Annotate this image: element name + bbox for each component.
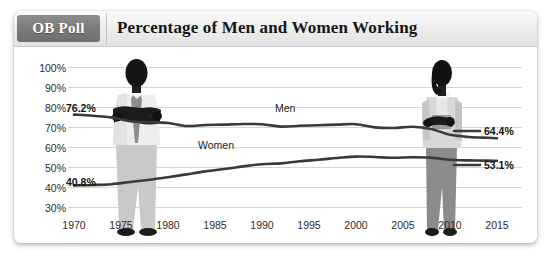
x-tick-1970: 1970 bbox=[52, 219, 96, 231]
y-tick-60: 60% bbox=[24, 142, 66, 154]
woman-silhouette bbox=[422, 60, 462, 236]
header-divider bbox=[106, 13, 107, 45]
value-label-women-start: 40.8% bbox=[66, 176, 96, 188]
x-tick-2005: 2005 bbox=[381, 219, 425, 231]
x-tick-2000: 2000 bbox=[334, 219, 378, 231]
ob-poll-badge-label: OB Poll bbox=[32, 20, 85, 37]
x-tick-1985: 1985 bbox=[193, 219, 237, 231]
y-tick-40: 40% bbox=[24, 182, 66, 194]
value-label-men-end: 64.4% bbox=[484, 125, 514, 137]
y-tick-50: 50% bbox=[24, 162, 66, 174]
series-label-women: Women bbox=[198, 139, 234, 151]
page-title: Percentage of Men and Women Working bbox=[117, 18, 417, 38]
y-tick-100: 100% bbox=[24, 62, 66, 74]
value-label-men-start: 76.2% bbox=[66, 102, 96, 114]
series-label-men: Men bbox=[275, 102, 295, 114]
x-tick-1980: 1980 bbox=[146, 219, 190, 231]
man-silhouette bbox=[112, 59, 162, 236]
x-tick-2015: 2015 bbox=[475, 219, 519, 231]
x-tick-1975: 1975 bbox=[99, 219, 143, 231]
x-tick-2010: 2010 bbox=[428, 219, 472, 231]
value-label-women-end: 53.1% bbox=[484, 159, 514, 171]
poll-chart-card: OB Poll Percentage of Men and Women Work… bbox=[14, 11, 537, 243]
chart-plot-area: 100% 90% 80% 70% 60% 50% 40% 30% 1970 19… bbox=[14, 47, 537, 243]
y-tick-90: 90% bbox=[24, 82, 66, 94]
card-header: OB Poll Percentage of Men and Women Work… bbox=[14, 11, 537, 47]
y-tick-80: 80% bbox=[24, 102, 66, 114]
y-tick-30: 30% bbox=[24, 202, 66, 214]
x-tick-1995: 1995 bbox=[287, 219, 331, 231]
ob-poll-badge: OB Poll bbox=[17, 15, 100, 42]
chart-svg bbox=[14, 47, 537, 243]
x-tick-1990: 1990 bbox=[240, 219, 284, 231]
screenshot-root: OB Poll Percentage of Men and Women Work… bbox=[0, 0, 551, 264]
y-tick-70: 70% bbox=[24, 122, 66, 134]
